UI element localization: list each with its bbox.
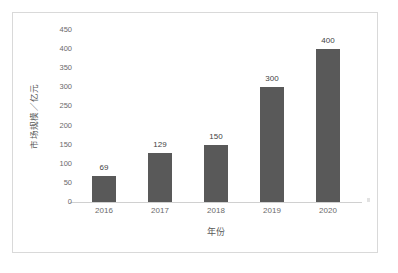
bar-value-label: 300	[265, 75, 278, 83]
x-axis-tick-label: 2020	[300, 207, 356, 215]
y-axis-tick-label: 250	[46, 103, 72, 111]
chart-figure: 050100150200250300350400450 市场规模／亿元 6912…	[0, 0, 398, 273]
bar-value-label: 69	[100, 164, 109, 172]
bar-series: 69129150300400	[76, 30, 356, 202]
scan-artifact	[367, 198, 370, 202]
x-axis-tick-label: 2019	[244, 207, 300, 215]
bar-value-label: 150	[209, 133, 222, 141]
y-axis-tick-label: 450	[46, 26, 72, 34]
y-axis-tick-label: 50	[46, 179, 72, 187]
y-axis-title: 市场规模／亿元	[27, 83, 39, 148]
category-axis-line	[70, 202, 362, 203]
bar-slot: 400	[300, 30, 356, 202]
y-axis-tick-label: 150	[46, 141, 72, 149]
bar-slot: 69	[76, 30, 132, 202]
x-axis-tick-label: 2017	[132, 207, 188, 215]
y-axis-tick-label: 350	[46, 64, 72, 72]
x-axis-tick-label: 2018	[188, 207, 244, 215]
bar	[260, 87, 284, 202]
y-axis-tick-label: 200	[46, 122, 72, 130]
bar-value-label: 129	[153, 141, 166, 149]
y-axis-tick-label: 100	[46, 160, 72, 168]
bar	[204, 145, 228, 202]
bar-value-label: 400	[321, 37, 334, 45]
x-axis-tick-label: 2016	[76, 207, 132, 215]
x-axis-title: 年份	[207, 225, 226, 238]
y-axis-tick-label: 0	[46, 198, 72, 206]
bar	[148, 153, 172, 202]
y-axis-tick-label: 300	[46, 84, 72, 92]
y-axis-tick-label: 400	[46, 45, 72, 53]
bar	[316, 49, 340, 202]
bar-slot: 150	[188, 30, 244, 202]
bar-slot: 129	[132, 30, 188, 202]
bar-slot: 300	[244, 30, 300, 202]
x-axis-tick-labels: 20162017201820192020	[76, 207, 356, 221]
y-axis-tick-labels: 050100150200250300350400450	[42, 0, 72, 273]
bar	[92, 176, 116, 202]
